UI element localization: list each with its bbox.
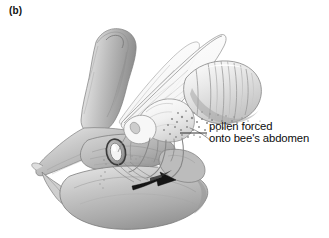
bee-abdomen (184, 61, 262, 124)
bee-and-flower-illustration (0, 0, 329, 238)
figure-container: (b) (0, 0, 329, 238)
annotation-line-1: pollen forced (209, 120, 309, 132)
annotation-label: pollen forced onto bee's abdomen (209, 120, 309, 145)
annotation-line-2: onto bee's abdomen (209, 132, 309, 144)
